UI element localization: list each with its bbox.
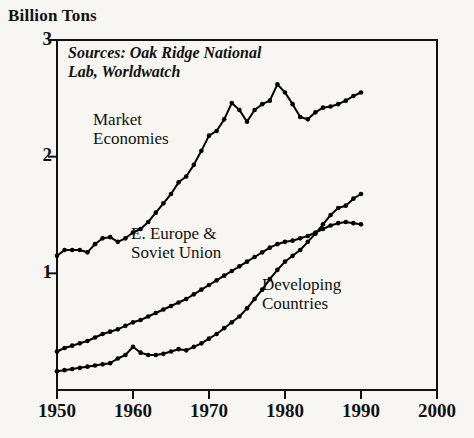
- data-point: [62, 368, 67, 373]
- data-point: [245, 259, 250, 264]
- data-point: [313, 110, 318, 115]
- data-point: [78, 341, 83, 346]
- data-point: [298, 115, 303, 120]
- axis-frame: [57, 40, 437, 390]
- data-point: [116, 356, 121, 361]
- data-point: [306, 234, 311, 239]
- data-point: [214, 332, 219, 337]
- data-point: [62, 346, 67, 351]
- data-point: [131, 320, 136, 325]
- data-point: [260, 102, 265, 107]
- data-point: [161, 352, 166, 357]
- data-point: [283, 240, 288, 245]
- data-point: [290, 238, 295, 243]
- data-point: [344, 220, 349, 225]
- developing-countries-label: Developing Countries: [262, 275, 341, 314]
- x-axis-ticks: [57, 390, 437, 399]
- data-point: [328, 213, 333, 218]
- data-point: [336, 102, 341, 107]
- data-point: [184, 174, 189, 179]
- data-point: [298, 236, 303, 241]
- chart-container: Billion Tons 3 2 1 1950 1960 1970 1980 1…: [0, 0, 474, 438]
- data-point: [78, 248, 83, 253]
- data-point: [245, 119, 250, 124]
- data-point: [55, 369, 60, 374]
- data-point: [176, 180, 181, 185]
- data-point: [359, 222, 364, 227]
- data-point: [230, 269, 235, 274]
- data-point: [176, 300, 181, 305]
- data-point: [146, 314, 151, 319]
- data-point: [70, 248, 75, 253]
- data-point: [237, 108, 242, 113]
- data-point: [237, 314, 242, 319]
- data-point: [328, 104, 333, 109]
- data-point: [108, 235, 113, 240]
- data-point: [214, 129, 219, 134]
- data-point: [321, 105, 326, 110]
- data-point: [176, 347, 181, 352]
- data-point: [207, 133, 212, 138]
- data-point: [237, 264, 242, 269]
- data-point: [359, 90, 364, 95]
- data-point: [78, 366, 83, 371]
- data-point: [306, 240, 311, 245]
- data-point: [230, 101, 235, 106]
- data-point: [100, 362, 105, 367]
- data-point: [70, 367, 75, 372]
- data-point: [146, 353, 151, 358]
- data-point: [351, 94, 356, 99]
- data-point: [199, 287, 204, 292]
- data-point: [207, 336, 212, 341]
- data-point: [184, 297, 189, 302]
- data-point: [359, 192, 364, 197]
- data-point: [192, 292, 197, 297]
- data-point: [275, 82, 280, 87]
- data-point: [192, 345, 197, 350]
- data-point: [290, 102, 295, 107]
- data-point: [268, 245, 273, 250]
- data-point: [85, 339, 90, 344]
- data-point: [138, 318, 143, 323]
- data-point: [313, 231, 318, 236]
- data-point: [123, 236, 128, 241]
- data-point: [138, 350, 143, 355]
- data-point: [184, 348, 189, 353]
- data-point: [154, 311, 159, 316]
- data-point: [123, 353, 128, 358]
- data-point: [55, 254, 60, 259]
- data-point: [268, 98, 273, 103]
- data-point: [161, 201, 166, 206]
- data-point: [131, 345, 136, 350]
- data-point: [306, 117, 311, 122]
- data-point: [245, 306, 250, 311]
- data-point: [214, 278, 219, 283]
- data-point: [154, 210, 159, 215]
- data-point: [336, 221, 341, 226]
- e-europe-soviet-union-label: E. Europe & Soviet Union: [131, 224, 221, 263]
- y-axis-ticks: [48, 40, 57, 273]
- data-point: [252, 255, 257, 260]
- data-point: [351, 221, 356, 226]
- data-point: [321, 222, 326, 227]
- data-point: [116, 327, 121, 332]
- data-point: [283, 90, 288, 95]
- data-point: [230, 320, 235, 325]
- data-point: [222, 273, 227, 278]
- data-point: [275, 242, 280, 247]
- data-point: [85, 250, 90, 255]
- data-point: [290, 254, 295, 259]
- data-point: [169, 349, 174, 354]
- data-point: [108, 361, 113, 366]
- data-point: [154, 353, 159, 358]
- data-point: [55, 349, 60, 354]
- data-point: [62, 248, 67, 253]
- data-point: [344, 98, 349, 103]
- data-point: [108, 329, 113, 334]
- data-point: [169, 192, 174, 197]
- data-point: [70, 343, 75, 348]
- data-point: [275, 268, 280, 273]
- data-point: [222, 117, 227, 122]
- data-point: [199, 149, 204, 154]
- data-point: [123, 324, 128, 329]
